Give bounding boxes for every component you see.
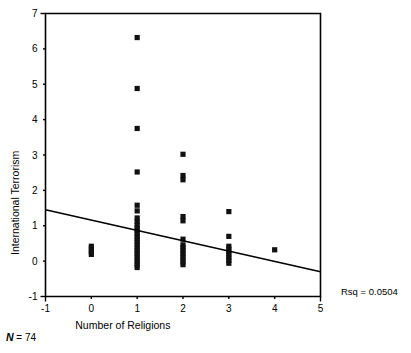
data-point-marker — [180, 262, 185, 267]
sample-size-symbol: N — [6, 331, 14, 343]
y-axis-title: International Terrorism — [9, 150, 21, 255]
y-tick-label: 7 — [32, 8, 38, 19]
x-tick-label: 1 — [134, 303, 140, 314]
data-point-marker — [135, 35, 140, 40]
y-axis-tick-labels: -101234567 — [29, 8, 38, 302]
y-tick-label: 4 — [32, 114, 38, 125]
data-point-marker — [272, 247, 277, 252]
data-point-marker — [135, 203, 140, 208]
x-axis-title: Number of Religions — [75, 319, 170, 331]
x-axis-tick-labels: -1012345 — [41, 303, 324, 314]
data-point-marker — [226, 261, 231, 266]
x-tick-label: 0 — [89, 303, 95, 314]
data-point-marker — [180, 177, 185, 182]
scatter-plot-figure: -1012345 -101234567 Number of Religions … — [0, 0, 411, 353]
data-point-marker — [135, 126, 140, 131]
y-tick-label: 3 — [32, 150, 38, 161]
y-tick-label: 5 — [32, 79, 38, 90]
data-point-marker — [180, 152, 185, 157]
data-point-marker — [180, 218, 185, 223]
y-tick-label: 2 — [32, 185, 38, 196]
x-tick-label: 2 — [180, 303, 186, 314]
y-tick-label: 1 — [32, 220, 38, 231]
x-tick-label: 5 — [318, 303, 324, 314]
data-point-marker — [226, 234, 231, 239]
data-point-marker — [135, 208, 140, 213]
data-point-marker — [135, 169, 140, 174]
data-point-marker — [89, 252, 94, 257]
rsq-annotation: Rsq = 0.0504 — [341, 286, 398, 297]
x-tick-label: 3 — [226, 303, 232, 314]
data-point-marker — [135, 86, 140, 91]
data-point-group — [89, 35, 278, 270]
sample-size-annotation: N = 74 — [6, 331, 36, 343]
sample-size-value: 74 — [25, 332, 36, 343]
y-tick-label: 6 — [32, 43, 38, 54]
y-tick-label: -1 — [29, 291, 38, 302]
data-point-marker — [135, 265, 140, 270]
sample-size-equals: = — [14, 332, 25, 343]
x-tick-label: 4 — [272, 303, 278, 314]
x-tick-label: -1 — [41, 303, 50, 314]
data-point-marker — [226, 209, 231, 214]
y-tick-label: 0 — [32, 256, 38, 267]
plot-canvas: -1012345 -101234567 Number of Religions … — [0, 0, 411, 353]
